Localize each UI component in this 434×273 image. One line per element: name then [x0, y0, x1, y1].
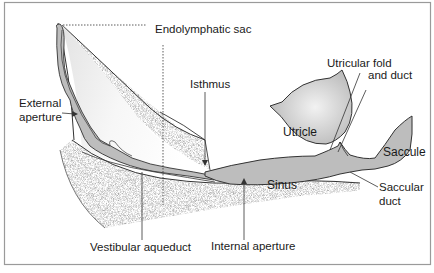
label-saccule: Saccule: [383, 145, 426, 159]
label-isthmus: Isthmus: [190, 78, 231, 90]
label-utricular-fold-1: Utricular fold: [327, 57, 392, 69]
label-external-aperture-2: aperture: [19, 111, 62, 123]
label-internal-aperture: Internal aperture: [211, 240, 295, 252]
inner-ear-diagram: Endolymphatic sac Isthmus External apert…: [0, 0, 434, 273]
label-saccular-duct-1: Saccular: [379, 181, 424, 193]
label-utricular-fold-2: and duct: [368, 69, 413, 81]
label-utricle: Utricle: [283, 125, 317, 139]
label-vestibular-aqueduct: Vestibular aqueduct: [90, 241, 192, 253]
label-saccular-duct-2: duct: [379, 195, 402, 207]
label-sinus: Sinus: [267, 178, 297, 192]
label-external-aperture-1: External: [19, 97, 61, 109]
label-endolymphatic-sac: Endolymphatic sac: [155, 23, 252, 35]
